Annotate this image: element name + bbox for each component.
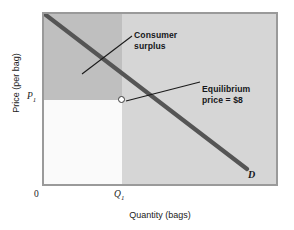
y-tick-subscript: 1: [33, 96, 36, 103]
consumer-surplus-leader-line: [82, 36, 132, 74]
origin-label: 0: [34, 189, 39, 199]
demand-curve-label: D: [248, 169, 255, 180]
equilibrium-price-label: Equilibrium price = $8: [202, 84, 250, 105]
consumer-surplus-label: Consumer surplus: [134, 30, 177, 51]
x-axis-title: Quantity (bags): [42, 210, 278, 220]
equilibrium-price-label-line1: Equilibrium: [202, 84, 250, 95]
plot-area: Consumer surplus Equilibrium price = $8 …: [42, 12, 278, 186]
x-tick-letter: Q: [114, 189, 121, 199]
consumer-surplus-label-line1: Consumer: [134, 30, 177, 41]
equilibrium-price-label-line2: price = $8: [202, 95, 250, 106]
x-tick-subscript: 1: [121, 194, 124, 201]
x-tick-label-q1: Q1: [114, 189, 124, 201]
economics-demand-diagram: Price (per bag) P1 0 Q1 Quantity (bags) …: [0, 0, 294, 230]
y-axis-title: Price (per bag): [11, 23, 21, 143]
equilibrium-point-marker: [118, 96, 125, 103]
y-tick-label-p1: P1: [27, 91, 36, 103]
consumer-surplus-label-line2: surplus: [134, 41, 177, 52]
